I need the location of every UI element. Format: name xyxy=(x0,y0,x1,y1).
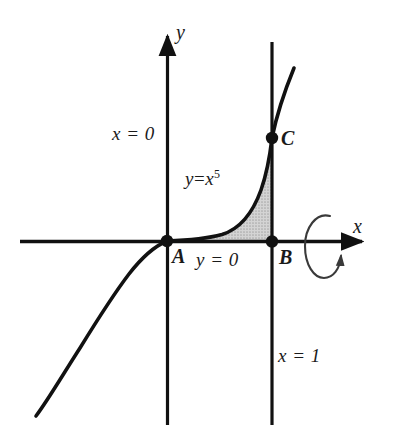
rotation-arrow-icon xyxy=(305,215,341,278)
curve-eq-op: = xyxy=(194,168,205,189)
curve-eq-exponent: 5 xyxy=(214,167,221,181)
shaded-region xyxy=(167,138,272,241)
label-x-equals-0: x = 0 xyxy=(112,124,155,143)
y-axis-label: y xyxy=(176,22,185,42)
solid-of-revolution-figure: x = 0 y=x5 y = 0 x = 1 A B C x y xyxy=(0,0,395,445)
x-axis-label: x xyxy=(353,216,362,236)
point-B-marker xyxy=(266,235,278,247)
point-C-marker xyxy=(266,132,278,144)
figure-canvas xyxy=(0,0,395,445)
point-label-B: B xyxy=(279,247,292,267)
label-curve-equation: y=x5 xyxy=(185,168,221,188)
label-y-equals-0: y = 0 xyxy=(196,250,239,269)
curve-eq-base: x xyxy=(205,168,214,189)
label-x-equals-1: x = 1 xyxy=(278,346,321,365)
curve-eq-lhs: y xyxy=(185,168,194,189)
point-label-A: A xyxy=(172,246,185,266)
point-label-C: C xyxy=(281,128,294,148)
